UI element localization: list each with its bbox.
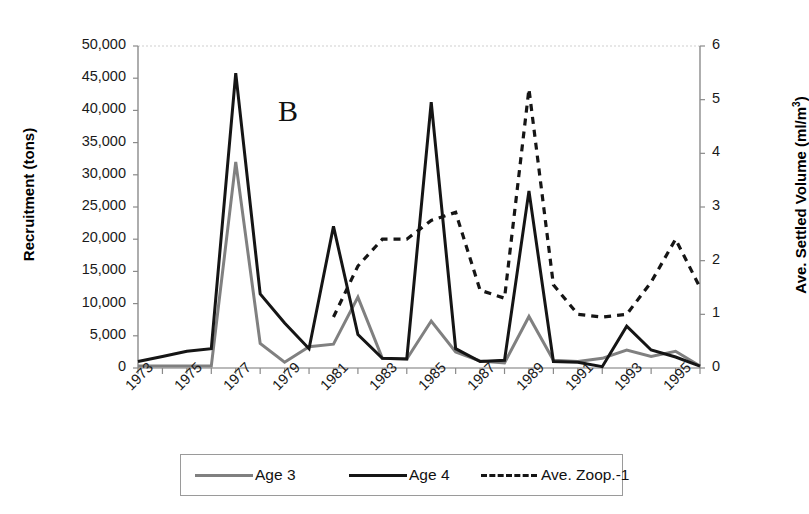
y-axis-left-tick-3: 35,000 <box>46 133 126 149</box>
panel-label: B <box>278 94 298 128</box>
y-axis-left-tick-4: 30,000 <box>46 165 126 181</box>
y-axis-left-tick-0: 50,000 <box>46 36 126 52</box>
y-axis-right-tick-6: 0 <box>712 358 752 374</box>
y-axis-right-title-close: ) <box>792 96 809 101</box>
y-axis-right-title-exponent: 3 <box>791 101 802 107</box>
legend-item-ave-zoop-1[interactable]: Ave. Zoop.-1 <box>481 464 629 486</box>
y-axis-right-tick-4: 2 <box>712 251 752 267</box>
y-axis-left-tick-5: 25,000 <box>46 197 126 213</box>
legend-item-age-4[interactable]: Age 4 <box>349 464 450 486</box>
y-axis-left-tick-9: 5,000 <box>46 326 126 342</box>
legend-swatch-3 <box>481 468 539 482</box>
y-axis-left-tick-2: 40,000 <box>46 100 126 116</box>
y-axis-left-tick-7: 15,000 <box>46 261 126 277</box>
legend-swatch-1 <box>195 468 253 482</box>
series-line-age-4 <box>138 73 700 367</box>
legend-line-glyph <box>195 474 253 477</box>
tick-marks-group <box>133 46 705 374</box>
plot-axes-group <box>138 46 700 368</box>
y-axis-right-tick-1: 5 <box>712 90 752 106</box>
legend-line-glyph <box>481 474 537 477</box>
y-axis-right-tick-0: 6 <box>712 36 752 52</box>
legend-swatch-2 <box>349 468 407 482</box>
legend-label-3: Ave. Zoop.-1 <box>541 466 629 484</box>
y-axis-right-tick-5: 1 <box>712 304 752 320</box>
data-series-group <box>138 73 700 367</box>
legend-item-age-3[interactable]: Age 3 <box>195 464 296 486</box>
y-axis-left-tick-10: 0 <box>46 358 126 374</box>
y-axis-right-tick-3: 3 <box>712 197 752 213</box>
y-axis-right-tick-2: 4 <box>712 143 752 159</box>
y-axis-left-tick-6: 20,000 <box>46 229 126 245</box>
y-axis-right-title: Ave. Settled Volume (ml/m3) <box>791 70 809 320</box>
y-axis-left-title: Recruitment (tons) <box>20 95 37 295</box>
legend-label-2: Age 4 <box>409 466 450 484</box>
y-axis-left-tick-8: 10,000 <box>46 294 126 310</box>
y-axis-left-tick-1: 45,000 <box>46 68 126 84</box>
y-axis-right-title-main: Ave. Settled Volume (ml/m <box>792 107 809 294</box>
series-line-age-3 <box>138 162 700 366</box>
legend-line-glyph <box>349 474 407 477</box>
chart-legend: Age 3Age 4Ave. Zoop.-1 <box>180 454 623 496</box>
legend-label-1: Age 3 <box>255 466 296 484</box>
